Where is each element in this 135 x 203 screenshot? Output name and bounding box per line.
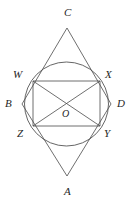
segment-A-D: [67, 104, 111, 176]
label-Z: Z: [17, 127, 24, 139]
label-C: C: [64, 6, 72, 18]
label-Y: Y: [104, 127, 112, 139]
label-A: A: [63, 185, 71, 197]
label-W: W: [13, 68, 23, 80]
geometry-canvas: C W X B D O Z Y A: [0, 0, 135, 203]
inscribed-circle: [25, 62, 109, 146]
label-X: X: [104, 68, 113, 80]
segment-C-D: [67, 28, 111, 104]
geometry-figure: C W X B D O Z Y A: [0, 0, 135, 203]
label-O: O: [62, 108, 69, 119]
segment-C-B: [22, 28, 67, 104]
label-D: D: [116, 97, 125, 109]
label-B: B: [5, 97, 12, 109]
